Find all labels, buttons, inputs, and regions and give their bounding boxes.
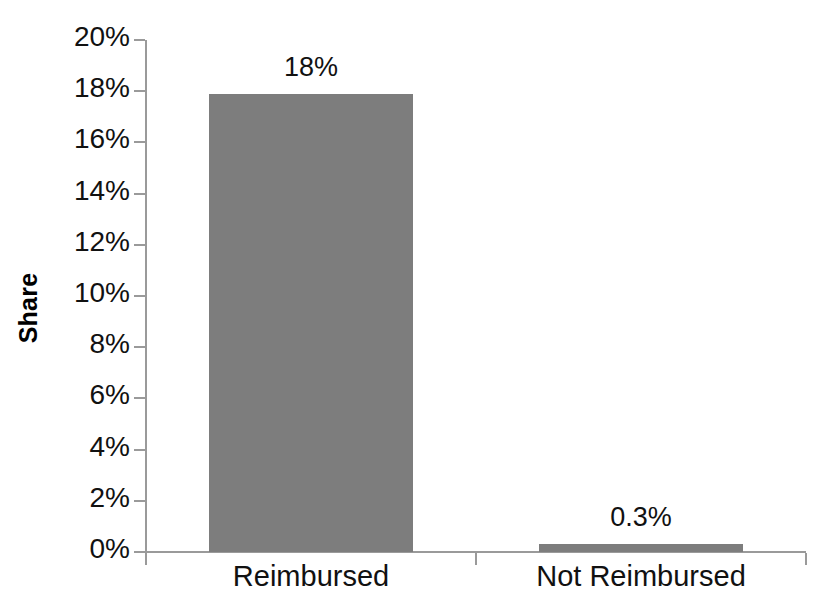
bar-chart-figure: Share 0%2%4%6%8%10%12%14%16%18%20% 18%0.… (0, 0, 832, 616)
data-label-reimbursed: 18% (201, 52, 421, 83)
y-axis-tick (134, 141, 145, 143)
y-axis-line (145, 40, 147, 553)
y-axis-tick (134, 90, 145, 92)
y-axis-tick-label: 6% (0, 379, 130, 411)
y-axis-tick (134, 449, 145, 451)
y-axis-tick (134, 551, 145, 553)
y-axis-tick-label: 14% (0, 175, 130, 207)
bar-reimbursed (209, 94, 413, 552)
x-axis-label-not-reimbursed: Not Reimbursed (476, 560, 806, 593)
y-axis-tick (134, 193, 145, 195)
y-axis-tick-label: 16% (0, 123, 130, 155)
y-axis-tick (134, 244, 145, 246)
y-axis-tick (134, 346, 145, 348)
y-axis-tick-label: 2% (0, 482, 130, 514)
y-axis-tick (134, 295, 145, 297)
y-axis-tick (134, 39, 145, 41)
bar-not-reimbursed (539, 544, 743, 552)
y-axis-tick-label: 0% (0, 533, 130, 565)
x-axis-label-reimbursed: Reimbursed (146, 560, 476, 593)
y-axis-tick-label: 8% (0, 328, 130, 360)
y-axis-tick-label: 12% (0, 226, 130, 258)
y-axis-tick-label: 10% (0, 277, 130, 309)
y-axis-tick (134, 397, 145, 399)
data-label-not-reimbursed: 0.3% (531, 502, 751, 533)
y-axis-tick-label: 18% (0, 72, 130, 104)
y-axis-tick-label: 20% (0, 21, 130, 53)
y-axis-tick-label: 4% (0, 431, 130, 463)
y-axis-tick (134, 500, 145, 502)
